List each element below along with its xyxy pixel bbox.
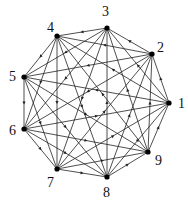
node-3 — [104, 25, 109, 30]
arrow-icon — [55, 101, 58, 104]
node-2 — [149, 51, 154, 56]
arrow-icon — [87, 64, 90, 67]
node-label-2: 2 — [157, 41, 164, 55]
arrow-icon — [95, 115, 98, 118]
arrow-icon — [22, 102, 25, 105]
node-label-6: 6 — [9, 124, 16, 138]
arrow-icon — [95, 89, 98, 92]
node-4 — [54, 33, 59, 38]
node-1 — [166, 100, 171, 105]
node-label-5: 5 — [9, 70, 16, 84]
node-label-7: 7 — [47, 176, 54, 190]
node-label-9: 9 — [155, 154, 162, 168]
node-label-4: 4 — [47, 21, 54, 35]
graph-diagram: 123456789 — [0, 0, 188, 207]
arrow-icon — [148, 102, 151, 105]
node-7 — [54, 166, 59, 171]
node-label-3: 3 — [102, 5, 109, 19]
node-8 — [104, 174, 109, 179]
arrow-icon — [103, 44, 106, 47]
node-9 — [145, 149, 150, 154]
node-5 — [21, 74, 26, 79]
node-label-1: 1 — [178, 97, 185, 111]
node-6 — [21, 126, 26, 131]
node-label-8: 8 — [103, 186, 110, 200]
arrow-icon — [84, 139, 87, 142]
graph-canvas — [0, 0, 188, 207]
